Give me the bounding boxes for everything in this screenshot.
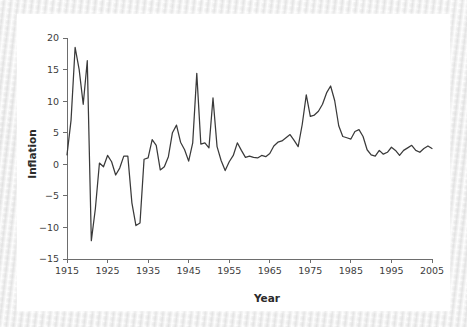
y-tick-label: −5 <box>45 190 59 201</box>
x-tick-label: 2005 <box>420 265 444 276</box>
x-axis-ticks: 1915192519351945195519651975198519952005 <box>55 259 444 276</box>
x-tick-label: 1985 <box>339 265 363 276</box>
y-tick-label: −10 <box>39 222 59 233</box>
x-tick-label: 1975 <box>298 265 322 276</box>
figure-card: 20151050−5−10−15 19151925193519451955196… <box>17 14 450 311</box>
x-tick-label: 1915 <box>55 265 79 276</box>
plot-area: 20151050−5−10−15 19151925193519451955196… <box>17 14 450 311</box>
x-tick-label: 1935 <box>136 265 160 276</box>
y-tick-label: 0 <box>53 159 59 170</box>
x-tick-label: 1965 <box>258 265 282 276</box>
y-tick-label: 5 <box>53 127 59 138</box>
series-group <box>67 47 432 240</box>
y-axis-title: Inflation <box>26 129 38 179</box>
x-tick-label: 1945 <box>177 265 201 276</box>
y-tick-label: 10 <box>47 96 59 107</box>
inflation-line-chart: 20151050−5−10−15 19151925193519451955196… <box>17 14 450 311</box>
y-axis-ticks: 20151050−5−10−15 <box>39 32 67 264</box>
x-tick-label: 1995 <box>379 265 403 276</box>
y-tick-label: −15 <box>39 253 59 264</box>
y-tick-label: 20 <box>47 32 59 43</box>
x-axis-title: Year <box>253 292 281 304</box>
screenshot-root: 20151050−5−10−15 19151925193519451955196… <box>0 0 467 327</box>
x-tick-label: 1925 <box>95 265 119 276</box>
inflation-series-line <box>67 47 432 240</box>
x-tick-label: 1955 <box>217 265 241 276</box>
y-tick-label: 15 <box>47 64 59 75</box>
